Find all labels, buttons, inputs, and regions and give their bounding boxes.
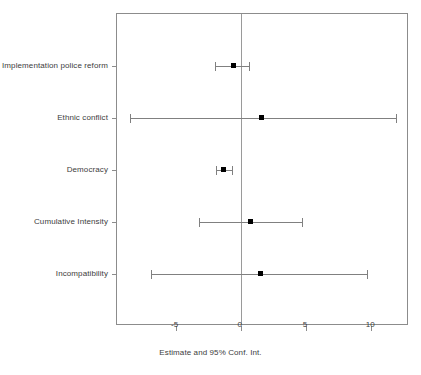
estimate-point (259, 115, 264, 120)
ci-high-cap (367, 270, 368, 279)
interval-row (117, 213, 407, 231)
interval-row (117, 265, 407, 283)
ci-high-cap (232, 166, 233, 175)
y-axis-label-cumulative-intensity: Cumulative Intensity (34, 217, 108, 226)
y-axis-tick (112, 274, 117, 275)
ci-low-cap (130, 114, 131, 123)
y-axis-tick (112, 222, 117, 223)
x-axis-title: Estimate and 95% Conf. Int. (0, 348, 421, 357)
y-axis-label-implementation-police-reform: Implementation police reform (2, 61, 108, 70)
interval-row (117, 161, 407, 179)
x-axis-ticklabel: 0 (238, 320, 242, 329)
ci-low-cap (199, 218, 200, 227)
ci-high-cap (249, 62, 250, 71)
estimate-point (231, 63, 236, 68)
y-axis-label-democracy: Democracy (67, 165, 108, 174)
interval-row (117, 109, 407, 127)
y-axis-tick (112, 170, 117, 171)
ci-low-cap (215, 62, 216, 71)
ci-high-cap (396, 114, 397, 123)
y-axis-tick (112, 118, 117, 119)
interval-row (117, 57, 407, 75)
x-axis-ticklabel: 10 (366, 320, 375, 329)
y-axis-label-ethnic-conflict: Ethnic conflict (57, 113, 108, 122)
coefficient-plot-figure: Implementation police reformEthnic confl… (0, 0, 421, 375)
x-axis-ticklabel: -5 (171, 320, 178, 329)
x-axis-ticklabel: 5 (303, 320, 307, 329)
estimate-point (221, 167, 226, 172)
estimate-point (248, 219, 253, 224)
ci-low-cap (151, 270, 152, 279)
y-axis-tick (112, 66, 117, 67)
ci-low-cap (216, 166, 217, 175)
plot-area (116, 13, 408, 325)
y-axis-label-incompatibility: Incompatibility (56, 269, 108, 278)
ci-high-cap (302, 218, 303, 227)
estimate-point (258, 271, 263, 276)
